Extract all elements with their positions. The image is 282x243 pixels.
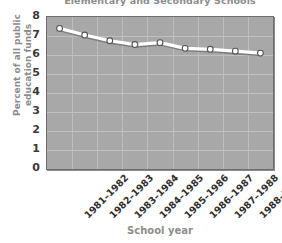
data-point-marker bbox=[207, 46, 213, 52]
data-point-marker bbox=[132, 42, 138, 48]
data-point-marker bbox=[157, 40, 163, 46]
y-axis-tick-label: 6 bbox=[24, 49, 40, 59]
y-axis-tick-label: 8 bbox=[24, 11, 40, 21]
data-series-line bbox=[47, 17, 273, 169]
data-point-marker bbox=[258, 50, 264, 56]
data-point-marker bbox=[232, 48, 238, 54]
y-axis-tick-label: 7 bbox=[24, 30, 40, 40]
data-point-marker bbox=[107, 38, 113, 44]
y-axis-tick-label: 4 bbox=[24, 87, 40, 97]
y-axis-tick-label: 1 bbox=[24, 144, 40, 154]
data-point-marker bbox=[57, 26, 63, 32]
y-axis-tick-label: 5 bbox=[24, 68, 40, 78]
x-axis-ticks: 1981–19821982–19831983–19841984–19851985… bbox=[0, 172, 282, 224]
chart-title: Elementary and Secondary Schools bbox=[44, 0, 276, 6]
y-axis-tick-label: 2 bbox=[24, 125, 40, 135]
y-axis-tick-label: 3 bbox=[24, 106, 40, 116]
plot-area bbox=[46, 16, 274, 170]
x-axis-title: School year bbox=[46, 225, 274, 236]
chart-container: Elementary and Secondary Schools Percent… bbox=[0, 0, 282, 243]
data-point-marker bbox=[182, 45, 188, 51]
y-axis-title-line1: Percent of all public bbox=[12, 14, 22, 116]
data-point-marker bbox=[82, 32, 88, 38]
